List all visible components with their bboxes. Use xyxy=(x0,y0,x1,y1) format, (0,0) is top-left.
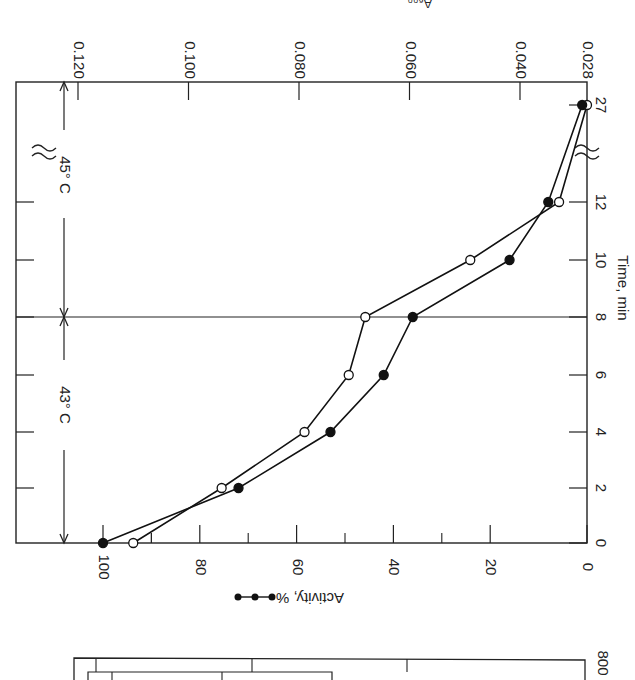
activity-series-filled-point xyxy=(408,313,417,322)
plot-area: 02468101227Time, min020406080100Activity… xyxy=(16,0,632,680)
absorbance-series-open-point xyxy=(466,256,475,265)
time-tick-label: 12 xyxy=(593,194,610,211)
second-figure-tick-label: 800 xyxy=(595,650,612,675)
legend-filled-circle-icon xyxy=(235,594,242,601)
activity-axis-title: Activity, % xyxy=(276,590,344,607)
plot-frame xyxy=(16,82,587,543)
activity-series-filled-point xyxy=(505,256,514,265)
time-axis-title: Time, min xyxy=(615,255,632,320)
activity-series-filled-point xyxy=(379,371,388,380)
axis-break-icon xyxy=(32,153,56,159)
absorbance-tick-label: 0.120 xyxy=(71,41,88,79)
absorbance-tick-label: 0.060 xyxy=(403,41,420,79)
second-figure-inner-frame xyxy=(88,672,332,680)
second-figure-frame xyxy=(74,658,585,680)
activity-series-filled-point xyxy=(99,539,108,548)
activity-tick-label: 80 xyxy=(193,559,210,576)
activity-series-filled-point xyxy=(578,101,587,110)
absorbance-tick-label: 0.100 xyxy=(182,41,199,79)
axis-break-icon xyxy=(32,145,56,151)
time-tick-label: 10 xyxy=(593,252,610,269)
time-tick-label: 6 xyxy=(593,371,610,379)
activity-tick-label: 60 xyxy=(290,559,307,576)
temp-45-label: 45° C xyxy=(57,156,74,194)
absorbance-series-open-point xyxy=(129,539,138,548)
activity-series-filled-point xyxy=(234,484,243,493)
legend-filled-circle-icon xyxy=(269,594,276,601)
temp-43-label: 43° C xyxy=(57,386,74,424)
absorbance-axis-title-partial: A₆₀₀ xyxy=(408,0,433,11)
time-tick-label: 2 xyxy=(593,484,610,492)
time-tick-label: 27 xyxy=(593,97,610,114)
absorbance-tick-label: 0.040 xyxy=(513,41,530,79)
absorbance-series-open-point xyxy=(300,428,309,437)
absorbance-series-line xyxy=(133,105,587,543)
activity-tick-label: 40 xyxy=(386,559,403,576)
activity-tick-label: 20 xyxy=(483,559,500,576)
activity-tick-label: 100 xyxy=(96,554,113,579)
absorbance-tick-label: 0.080 xyxy=(292,41,309,79)
absorbance-tick-label: 0.028 xyxy=(580,41,597,79)
time-tick-label: 8 xyxy=(593,313,610,321)
chart-figure: 02468101227Time, min020406080100Activity… xyxy=(0,0,635,680)
absorbance-series-open-point xyxy=(217,484,226,493)
activity-series-line xyxy=(103,105,582,543)
absorbance-series-open-point xyxy=(344,371,353,380)
activity-series-filled-point xyxy=(544,198,553,207)
time-tick-label: 4 xyxy=(593,428,610,436)
absorbance-series-open-point xyxy=(555,198,564,207)
absorbance-series-open-point xyxy=(361,313,370,322)
chart-svg: 02468101227Time, min020406080100Activity… xyxy=(0,0,635,680)
activity-series-filled-point xyxy=(326,428,335,437)
activity-tick-label: 0 xyxy=(580,563,597,571)
time-tick-label: 0 xyxy=(593,539,610,547)
legend-filled-circle-icon xyxy=(252,594,259,601)
